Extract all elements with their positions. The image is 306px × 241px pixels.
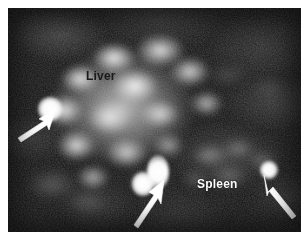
scan-image-plate: Liver Spleen — [8, 8, 301, 232]
scan-background-field — [8, 8, 301, 232]
scintigraphy-figure: Liver Spleen — [0, 0, 306, 241]
